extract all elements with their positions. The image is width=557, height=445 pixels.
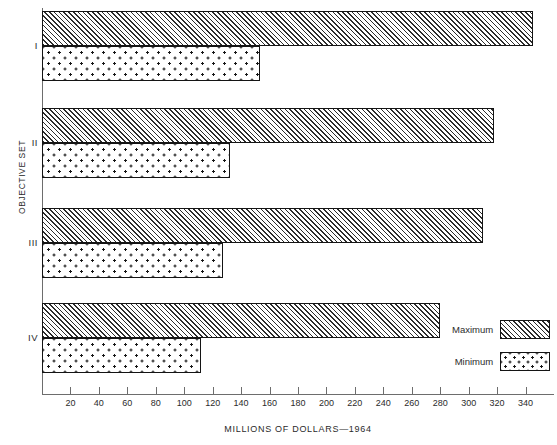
chart-legend: Maximum Minimum (452, 318, 550, 382)
x-tick-label-20: 20 (55, 398, 85, 408)
legend-label-minimum: Minimum (455, 356, 494, 367)
x-tick-label-100: 100 (169, 398, 199, 408)
x-tick-label-340: 340 (511, 398, 541, 408)
x-tick-label-200: 200 (311, 398, 341, 408)
bar-minimum-ii (42, 143, 230, 178)
x-tick-60 (127, 387, 128, 395)
x-tick-label-40: 40 (84, 398, 114, 408)
x-tick-280 (440, 387, 441, 395)
bar-chart: OBJECTIVE SET IIIIIIIV 20406080100120140… (0, 0, 557, 445)
category-label-ii: II (14, 137, 38, 148)
legend-item-minimum: Minimum (452, 350, 550, 372)
bar-minimum-iii (42, 243, 223, 278)
bar-maximum-ii (42, 108, 494, 143)
x-tick-120 (213, 387, 214, 395)
x-tick-320 (497, 387, 498, 395)
x-tick-label-180: 180 (283, 398, 313, 408)
y-axis-title: OBJECTIVE SET (17, 107, 27, 247)
x-tick-label-300: 300 (454, 398, 484, 408)
x-tick-240 (383, 387, 384, 395)
x-tick-label-80: 80 (141, 398, 171, 408)
legend-swatch-maximum-icon (500, 320, 550, 339)
x-tick-340 (526, 387, 527, 395)
x-tick-140 (241, 387, 242, 395)
x-tick-20 (70, 387, 71, 395)
x-tick-label-140: 140 (226, 398, 256, 408)
bar-minimum-i (42, 46, 260, 81)
x-tick-label-120: 120 (198, 398, 228, 408)
bar-maximum-iv (42, 303, 440, 338)
x-tick-label-160: 160 (255, 398, 285, 408)
x-tick-180 (298, 387, 299, 395)
x-tick-label-260: 260 (397, 398, 427, 408)
x-tick-80 (156, 387, 157, 395)
x-tick-label-320: 320 (482, 398, 512, 408)
x-tick-label-60: 60 (112, 398, 142, 408)
category-label-iii: III (14, 237, 38, 248)
legend-swatch-minimum-icon (500, 352, 550, 371)
x-tick-220 (355, 387, 356, 395)
bar-maximum-i (42, 11, 533, 46)
x-axis-title: MILLIONS OF DOLLARS—1964 (42, 424, 554, 434)
x-tick-100 (184, 387, 185, 395)
x-tick-200 (326, 387, 327, 395)
x-tick-label-280: 280 (425, 398, 455, 408)
x-tick-160 (270, 387, 271, 395)
x-tick-300 (469, 387, 470, 395)
category-label-i: I (14, 40, 38, 51)
x-tick-label-220: 220 (340, 398, 370, 408)
bar-maximum-iii (42, 208, 483, 243)
x-tick-label-240: 240 (368, 398, 398, 408)
x-tick-40 (99, 387, 100, 395)
bar-minimum-iv (42, 338, 201, 373)
x-tick-260 (412, 387, 413, 395)
legend-item-maximum: Maximum (452, 318, 550, 340)
legend-label-maximum: Maximum (452, 324, 493, 335)
category-label-iv: IV (14, 332, 38, 343)
